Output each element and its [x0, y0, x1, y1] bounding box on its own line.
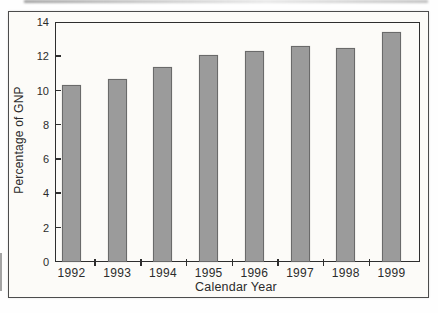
y-tick-mark — [56, 55, 61, 57]
y-tick-label: 10 — [23, 84, 49, 98]
bar-1997 — [291, 46, 310, 262]
y-tick-label: 4 — [23, 186, 49, 200]
y-tick-mark — [56, 158, 61, 160]
x-tick-label: 1996 — [232, 266, 276, 280]
bar-1999 — [382, 32, 401, 262]
x-tick-mark — [323, 259, 325, 266]
bar-1996 — [245, 51, 264, 262]
x-tick-mark — [369, 259, 371, 266]
y-axis-title: Percentage of GNP — [12, 80, 26, 200]
x-tick-label: 1995 — [187, 266, 231, 280]
y-tick-mark — [56, 90, 61, 92]
x-tick-mark — [277, 259, 279, 266]
bar-1992 — [62, 85, 81, 262]
y-tick-label: 6 — [23, 152, 49, 166]
bar-1994 — [153, 67, 172, 262]
y-tick-label: 14 — [23, 15, 49, 29]
bar-1998 — [336, 48, 355, 262]
x-tick-label: 1998 — [324, 266, 368, 280]
x-tick-label: 1997 — [278, 266, 322, 280]
x-tick-mark — [186, 259, 188, 266]
y-tick-mark — [56, 192, 61, 194]
x-tick-mark — [94, 259, 96, 266]
x-tick-label: 1992 — [50, 266, 94, 280]
y-tick-mark — [56, 124, 61, 126]
x-tick-label: 1999 — [370, 266, 414, 280]
chart-layer: Calendar Year Percentage of GNP 19921993… — [0, 0, 438, 313]
x-tick-mark — [232, 259, 234, 266]
x-tick-label: 1994 — [141, 266, 185, 280]
x-tick-label: 1993 — [95, 266, 139, 280]
bar-1995 — [199, 55, 218, 262]
x-axis-title: Calendar Year — [136, 280, 336, 294]
x-tick-mark — [140, 259, 142, 266]
bar-1993 — [108, 79, 127, 262]
y-tick-label: 0 — [23, 255, 49, 269]
y-tick-label: 2 — [23, 221, 49, 235]
y-tick-label: 8 — [23, 118, 49, 132]
y-tick-label: 12 — [23, 49, 49, 63]
y-tick-mark — [56, 227, 61, 229]
